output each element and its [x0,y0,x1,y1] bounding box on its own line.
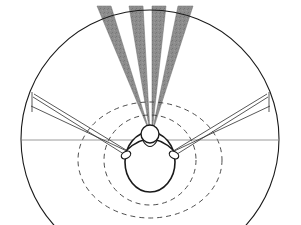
head-field-of-view-diagram: Head-centred field-of-view diagram Top-d… [0,0,301,225]
figure-root: Head-centred field-of-view diagram Top-d… [0,0,301,225]
nose-icon [141,125,159,143]
